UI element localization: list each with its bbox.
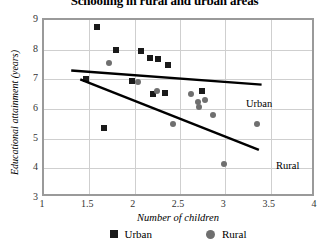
x-tick-label: 2.5 [172, 198, 185, 209]
x-axis-tick-labels: 11.522.533.54 [42, 198, 314, 212]
rural-trendline [80, 79, 259, 150]
y-axis-tick-labels: 3456789 [0, 18, 38, 196]
x-tick-label: 4 [312, 198, 317, 209]
legend-label-urban: Urban [125, 228, 153, 240]
legend-item-rural: Rural [206, 228, 246, 240]
rural-marker-icon [206, 230, 215, 239]
plot-frame: Urban Rural [42, 18, 314, 196]
x-axis-title: Number of children [42, 212, 314, 223]
urban-series-label: Urban [246, 98, 272, 109]
legend-label-rural: Rural [222, 228, 246, 240]
urban-marker-icon [110, 230, 118, 238]
chart-title: Schooling in rural and urban areas [0, 0, 329, 9]
x-tick-label: 1 [40, 198, 45, 209]
y-tick-label: 6 [4, 102, 38, 113]
y-tick-label: 7 [4, 72, 38, 83]
y-tick-label: 3 [4, 191, 38, 202]
urban-trendline [71, 70, 261, 84]
x-tick-label: 3 [221, 198, 226, 209]
y-tick-label: 4 [4, 161, 38, 172]
legend-item-urban: Urban [110, 228, 153, 240]
trendlines-layer [44, 20, 316, 198]
y-tick-label: 5 [4, 131, 38, 142]
rural-series-label: Rural [276, 160, 299, 171]
y-tick-label: 9 [4, 13, 38, 24]
x-tick-label: 2 [130, 198, 135, 209]
chart-legend: Urban Rural [42, 228, 314, 240]
x-tick-label: 1.5 [81, 198, 94, 209]
x-tick-label: 3.5 [262, 198, 275, 209]
y-tick-label: 8 [4, 42, 38, 53]
